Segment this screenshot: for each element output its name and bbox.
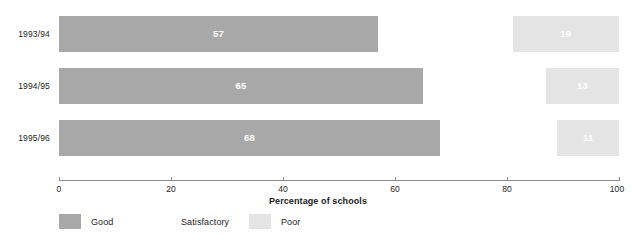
x-axis-tick [507, 177, 508, 181]
bar-value-good-1995-96: 68 [59, 120, 440, 156]
category-label-1993-94: 1993/94 [0, 16, 50, 52]
category-label-1995-96: 1995/96 [0, 120, 50, 156]
legend-label-good: Good [91, 213, 113, 231]
bar-value-poor-1993-94: 19 [513, 16, 619, 52]
bar-segment-poor-1993-94: 19 [513, 16, 619, 52]
chart-container: 1993/94 57 19 1994/95 65 13 [0, 0, 636, 246]
legend-swatch-satisfactory-icon [149, 214, 171, 229]
category-label-1994-95: 1994/95 [0, 68, 50, 104]
x-axis-tick [395, 177, 396, 181]
bar-value-good-1993-94: 57 [59, 16, 378, 52]
x-axis-tick-label-80: 80 [487, 184, 527, 194]
bar-value-satisfactory-1993-94 [378, 16, 512, 52]
x-axis-tick-label-60: 60 [375, 184, 415, 194]
x-axis-tick-label-40: 40 [263, 184, 303, 194]
legend-swatch-good-icon [59, 214, 81, 229]
bar-value-poor-1995-96: 11 [557, 120, 619, 156]
bar-value-satisfactory-1995-96 [440, 120, 558, 156]
bar-segment-good-1994-95: 65 [59, 68, 423, 104]
bar-segment-good-1995-96: 68 [59, 120, 440, 156]
plot-area: 1993/94 57 19 1994/95 65 13 [0, 0, 636, 246]
x-axis-tick-label-20: 20 [151, 184, 191, 194]
bar-row: 1995/96 68 11 [0, 120, 636, 156]
bar-segment-satisfactory-1993-94 [378, 16, 512, 52]
bar-segment-poor-1994-95: 13 [546, 68, 619, 104]
x-axis-tick [59, 177, 60, 181]
bar-row: 1993/94 57 19 [0, 16, 636, 52]
legend-label-poor: Poor [281, 213, 300, 231]
x-axis-tick-label-100: 100 [597, 184, 636, 194]
bar-value-satisfactory-1994-95 [423, 68, 546, 104]
bar-segment-poor-1995-96: 11 [557, 120, 619, 156]
bar-value-poor-1994-95: 13 [546, 68, 619, 104]
x-axis-tick-label-0: 0 [39, 184, 79, 194]
x-axis-line [59, 180, 619, 181]
bar-value-good-1994-95: 65 [59, 68, 423, 104]
bar-segment-satisfactory-1995-96 [440, 120, 558, 156]
x-axis-tick [283, 177, 284, 181]
bar-segment-satisfactory-1994-95 [423, 68, 546, 104]
bar-segment-good-1993-94: 57 [59, 16, 378, 52]
x-axis-title: Percentage of schools [0, 196, 636, 206]
x-axis-tick [171, 177, 172, 181]
bar-row: 1994/95 65 13 [0, 68, 636, 104]
x-axis-tick [619, 177, 620, 181]
legend-swatch-poor-icon [249, 214, 271, 229]
legend-label-satisfactory: Satisfactory [181, 213, 229, 231]
